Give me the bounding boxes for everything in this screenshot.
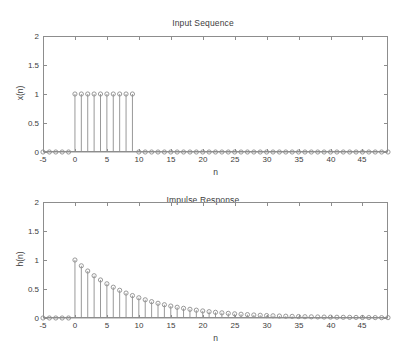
x-tick-1-10 <box>362 315 363 318</box>
x-ticklabel-0-9: 40 <box>327 155 336 164</box>
stem-marker <box>354 315 358 319</box>
y-tick-1-1 <box>44 289 47 290</box>
y-tick-right-1-2 <box>384 260 387 261</box>
x-tick-1-5 <box>203 315 204 318</box>
x-ticklabel-1-4: 15 <box>167 321 176 330</box>
x-tick-0-1 <box>75 149 76 152</box>
x-tick-top-1-3 <box>139 203 140 206</box>
x-tick-1-4 <box>171 315 172 318</box>
y-ticklabel-1-4: 2 <box>13 198 39 207</box>
x-tick-1-9 <box>331 315 332 318</box>
x-ticklabel-1-6: 25 <box>231 321 240 330</box>
stem-marker <box>335 315 339 319</box>
y-tick-right-1-3 <box>384 231 387 232</box>
x-ticklabel-0-2: 5 <box>105 155 109 164</box>
x-tick-top-1-0 <box>43 203 44 206</box>
y-ticklabel-0-4: 2 <box>13 32 39 41</box>
x-tick-top-1-6 <box>235 203 236 206</box>
x-tick-0-4 <box>171 149 172 152</box>
x-ticklabel-0-5: 20 <box>199 155 208 164</box>
stem-marker <box>348 315 352 319</box>
y-ticklabel-1-0: 0 <box>13 314 39 323</box>
y-axis-label-input-sequence: x(n) <box>15 78 25 108</box>
x-ticklabel-1-5: 20 <box>199 321 208 330</box>
x-tick-0-6 <box>235 149 236 152</box>
y-ticklabel-1-3: 1.5 <box>13 227 39 236</box>
x-tick-0-9 <box>331 149 332 152</box>
x-tick-0-10 <box>362 149 363 152</box>
x-tick-top-0-10 <box>362 37 363 40</box>
x-tick-0-7 <box>267 149 268 152</box>
x-ticklabel-0-3: 10 <box>135 155 144 164</box>
x-ticklabel-1-1: 0 <box>73 321 77 330</box>
x-tick-top-1-7 <box>267 203 268 206</box>
matlab-figure: Input Sequence -505101520253035404500.51… <box>0 0 406 354</box>
y-tick-0-2 <box>44 94 47 95</box>
y-ticklabel-0-1: 0.5 <box>13 119 39 128</box>
y-tick-1-0 <box>44 318 47 319</box>
x-tick-1-7 <box>267 315 268 318</box>
y-tick-right-0-1 <box>384 123 387 124</box>
x-tick-top-1-5 <box>203 203 204 206</box>
x-axis-label-impulse-response: n <box>213 333 218 343</box>
x-tick-0-8 <box>299 149 300 152</box>
x-tick-0-2 <box>107 149 108 152</box>
plot-panel-impulse-response: Impulse Response -505101520253035404500.… <box>0 177 406 354</box>
y-tick-right-1-1 <box>384 289 387 290</box>
x-tick-top-1-2 <box>107 203 108 206</box>
x-tick-top-1-8 <box>299 203 300 206</box>
y-tick-1-4 <box>44 202 47 203</box>
x-ticklabel-1-0: -5 <box>39 321 46 330</box>
x-tick-top-0-6 <box>235 37 236 40</box>
y-tick-0-1 <box>44 123 47 124</box>
x-ticklabel-0-4: 15 <box>167 155 176 164</box>
x-ticklabel-0-7: 30 <box>263 155 272 164</box>
x-tick-1-8 <box>299 315 300 318</box>
plot-panel-input-sequence: Input Sequence -505101520253035404500.51… <box>0 0 406 177</box>
x-tick-top-0-1 <box>75 37 76 40</box>
stem-marker <box>322 315 326 319</box>
x-tick-1-3 <box>139 315 140 318</box>
x-axis-label-input-sequence: n <box>213 167 218 177</box>
y-ticklabel-0-0: 0 <box>13 148 39 157</box>
x-tick-top-0-7 <box>267 37 268 40</box>
x-tick-top-0-4 <box>171 37 172 40</box>
x-tick-1-1 <box>75 315 76 318</box>
x-ticklabel-1-7: 30 <box>263 321 272 330</box>
x-tick-top-1-1 <box>75 203 76 206</box>
x-tick-top-0-8 <box>299 37 300 40</box>
y-tick-0-0 <box>44 152 47 153</box>
x-tick-top-1-4 <box>171 203 172 206</box>
y-tick-right-1-0 <box>384 318 387 319</box>
y-tick-0-3 <box>44 65 47 66</box>
y-tick-right-1-4 <box>384 202 387 203</box>
stem-marker <box>341 315 345 319</box>
x-ticklabel-0-1: 0 <box>73 155 77 164</box>
x-ticklabel-0-6: 25 <box>231 155 240 164</box>
x-ticklabel-0-0: -5 <box>39 155 46 164</box>
y-tick-right-0-0 <box>384 152 387 153</box>
x-tick-1-6 <box>235 315 236 318</box>
y-tick-right-0-2 <box>384 94 387 95</box>
y-tick-1-3 <box>44 231 47 232</box>
y-ticklabel-0-3: 1.5 <box>13 61 39 70</box>
x-ticklabel-1-2: 5 <box>105 321 109 330</box>
y-axis-label-impulse-response: h(n) <box>15 244 25 274</box>
x-tick-1-2 <box>107 315 108 318</box>
x-tick-top-0-0 <box>43 37 44 40</box>
x-tick-top-1-10 <box>362 203 363 206</box>
y-tick-right-0-4 <box>384 36 387 37</box>
x-tick-top-1-9 <box>331 203 332 206</box>
x-tick-top-0-5 <box>203 37 204 40</box>
y-ticklabel-1-1: 0.5 <box>13 285 39 294</box>
x-ticklabel-0-8: 35 <box>295 155 304 164</box>
y-tick-0-4 <box>44 36 47 37</box>
x-tick-top-0-9 <box>331 37 332 40</box>
x-ticklabel-0-10: 45 <box>358 155 367 164</box>
x-ticklabel-1-3: 10 <box>135 321 144 330</box>
x-tick-0-3 <box>139 149 140 152</box>
y-tick-right-0-3 <box>384 65 387 66</box>
y-tick-1-2 <box>44 260 47 261</box>
x-ticklabel-1-10: 45 <box>358 321 367 330</box>
stem-marker <box>367 315 371 319</box>
